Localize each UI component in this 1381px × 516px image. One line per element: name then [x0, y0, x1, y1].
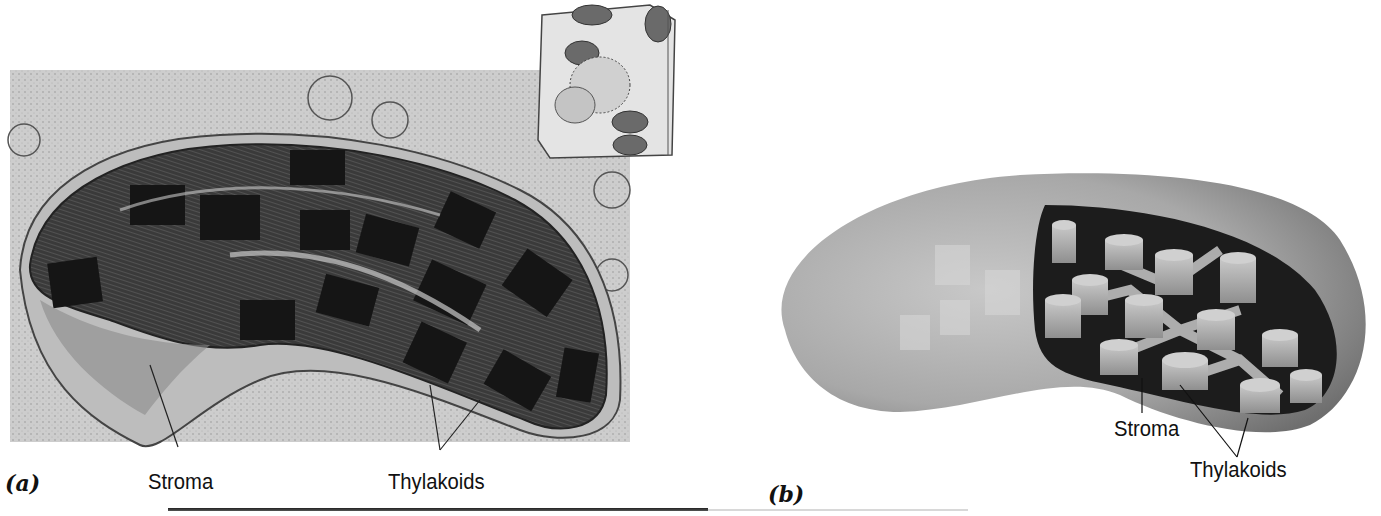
panel-a-thylakoids-label: Thylakoids: [388, 469, 485, 495]
chloroplast-cutaway-image: [700, 0, 1381, 516]
panel-b-illustration: Stroma Thylakoids (b): [700, 0, 1381, 516]
panel-a-micrograph: Stroma Thylakoids (a): [0, 0, 700, 516]
panel-b-letter: (b): [768, 481, 804, 507]
panel-b-thylakoids-label: Thylakoids: [1190, 457, 1287, 483]
cell-drawing-inset-icon: [520, 0, 680, 160]
caption-rule-continuation: [708, 509, 968, 511]
caption-rule: [168, 508, 708, 511]
panel-b-stroma-label: Stroma: [1114, 416, 1179, 442]
panel-a-stroma-label: Stroma: [148, 469, 213, 495]
panel-a-letter: (a): [5, 470, 40, 496]
